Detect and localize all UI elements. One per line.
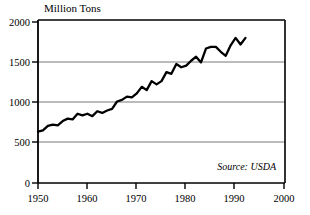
x-tick-label-2000: 2000: [274, 193, 295, 204]
y-tick-label-1500: 1500: [9, 57, 30, 68]
x-tick-label-1980: 1980: [175, 193, 196, 204]
y-tick-label-2000: 2000: [9, 17, 30, 28]
chart-title: Million Tons: [44, 2, 101, 14]
x-tick-label-1960: 1960: [77, 193, 98, 204]
x-tick-label-1970: 1970: [126, 193, 147, 204]
source-annotation: Source: USDA: [217, 161, 277, 172]
x-tick-label-1990: 1990: [224, 193, 245, 204]
y-tick-label-500: 500: [14, 137, 30, 148]
y-tick-label-0: 0: [25, 178, 30, 189]
x-tick-label-1950: 1950: [28, 193, 49, 204]
y-tick-label-1000: 1000: [9, 97, 30, 108]
chart-figure: 2000 1500 1000 500 0 1950 1960 1970 1980…: [0, 0, 310, 215]
line-chart-svg: 2000 1500 1000 500 0 1950 1960 1970 1980…: [0, 0, 310, 215]
